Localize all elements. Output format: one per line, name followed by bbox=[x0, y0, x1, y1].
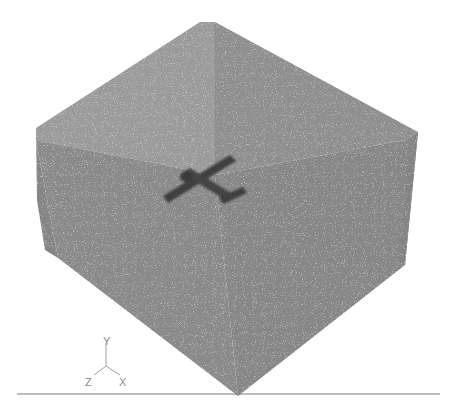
front-right-face bbox=[215, 132, 418, 396]
3d-graphics-viewport[interactable]: Y Z X bbox=[0, 0, 450, 416]
triad-label-z: Z bbox=[85, 376, 92, 388]
triad-label-x: X bbox=[119, 376, 127, 388]
fluid-domain-box[interactable] bbox=[36, 22, 418, 396]
triad-x-axis bbox=[106, 366, 120, 375]
axis-triad: Y Z X bbox=[85, 335, 127, 388]
triad-z-axis bbox=[94, 366, 106, 375]
airplane-cockpit bbox=[180, 172, 192, 182]
triad-label-y: Y bbox=[103, 335, 111, 347]
model-canvas[interactable]: Y Z X bbox=[0, 0, 450, 416]
